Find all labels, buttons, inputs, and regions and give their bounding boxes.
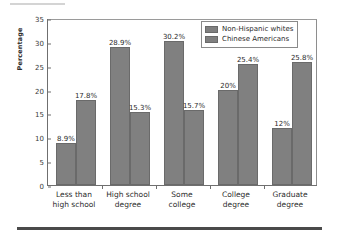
- bottom-divider: [17, 227, 322, 230]
- bar-value-label: 28.9%: [109, 39, 131, 47]
- x-axis-label: Graduatedegree: [263, 190, 317, 210]
- bar[interactable]: 15.3%: [130, 112, 150, 185]
- y-tick-label: 10: [35, 135, 44, 143]
- y-tick-label: 30: [35, 40, 44, 48]
- bar[interactable]: 15.7%: [184, 110, 204, 185]
- bar-group: 8.9%17.8%: [48, 20, 102, 185]
- y-tick-label: 20: [35, 88, 44, 96]
- x-tick-mark: [102, 185, 103, 189]
- x-tick-mark: [156, 185, 157, 189]
- bar[interactable]: 17.8%: [76, 100, 96, 185]
- y-tick-label: 0: [40, 183, 44, 191]
- legend-item: Non-Hispanic whites: [205, 24, 293, 34]
- legend: Non-Hispanic whites Chinese Americans: [201, 21, 298, 48]
- bar-group: 28.9%15.3%: [102, 20, 156, 185]
- bar[interactable]: 30.2%: [164, 41, 184, 185]
- legend-item: Chinese Americans: [205, 34, 293, 44]
- y-tick-label: 25: [35, 64, 44, 72]
- bar-value-label: 25.4%: [237, 56, 259, 64]
- bar-value-label: 25.8%: [291, 54, 313, 62]
- x-tick-mark: [264, 185, 265, 189]
- x-axis-label: Less thanhigh school: [47, 190, 101, 210]
- x-tick-mark: [210, 185, 211, 189]
- legend-swatch-icon: [205, 36, 218, 43]
- bar[interactable]: 25.4%: [238, 64, 258, 185]
- bar-value-label: 17.8%: [75, 92, 97, 100]
- bar[interactable]: 25.8%: [292, 62, 312, 185]
- bar-value-label: 8.9%: [57, 135, 75, 143]
- x-axis-label: High schooldegree: [101, 190, 155, 210]
- bar-value-label: 12%: [274, 120, 290, 128]
- bar[interactable]: 12%: [272, 128, 292, 185]
- legend-item-label: Chinese Americans: [222, 35, 289, 43]
- y-axis-title: Percentage: [14, 14, 26, 84]
- legend-swatch-icon: [205, 26, 218, 33]
- y-tick-label: 15: [35, 111, 44, 119]
- y-tick-mark: [48, 187, 51, 188]
- bar-chart-figure: Percentage 05101520253035 8.9%17.8%28.9%…: [0, 0, 338, 235]
- x-axis-label: Collegedegree: [209, 190, 263, 210]
- bar-value-label: 15.7%: [183, 102, 205, 110]
- bar[interactable]: 28.9%: [110, 47, 130, 185]
- bar[interactable]: 8.9%: [56, 143, 76, 185]
- bar-value-label: 20%: [220, 82, 236, 90]
- y-tick-label: 35: [35, 16, 44, 24]
- legend-item-label: Non-Hispanic whites: [222, 25, 293, 33]
- x-axis-label: Somecollege: [155, 190, 209, 210]
- y-tick-label: 5: [40, 159, 44, 167]
- bar-value-label: 30.2%: [163, 33, 185, 41]
- bar[interactable]: 20%: [218, 90, 238, 185]
- bar-value-label: 15.3%: [129, 104, 151, 112]
